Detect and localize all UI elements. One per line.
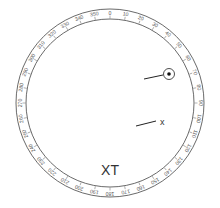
degree-label: 220 bbox=[46, 165, 59, 178]
degree-label: 240 bbox=[27, 141, 39, 153]
degree-label: 0 bbox=[109, 10, 112, 19]
degree-label: 230 bbox=[36, 154, 49, 167]
degree-label: 280 bbox=[17, 82, 27, 92]
svg-text:180: 180 bbox=[106, 191, 115, 197]
degree-label: 300 bbox=[27, 52, 39, 64]
svg-text:350: 350 bbox=[90, 10, 100, 17]
svg-text:100: 100 bbox=[195, 114, 202, 124]
degree-label: 330 bbox=[60, 20, 72, 32]
svg-text:240: 240 bbox=[27, 143, 37, 154]
svg-text:310: 310 bbox=[36, 39, 46, 50]
degree-label: 270 bbox=[17, 99, 26, 108]
svg-text:90: 90 bbox=[198, 100, 204, 106]
svg-text:80: 80 bbox=[196, 84, 203, 91]
svg-text:320: 320 bbox=[47, 29, 58, 39]
svg-text:130: 130 bbox=[174, 156, 184, 167]
compass-dial: 0102030405060708090100110120130140150160… bbox=[0, 0, 220, 208]
degree-label: 320 bbox=[47, 29, 60, 42]
degree-label: 350 bbox=[90, 10, 100, 20]
x-label: x bbox=[160, 117, 165, 127]
svg-text:280: 280 bbox=[17, 82, 24, 92]
degree-label: 260 bbox=[17, 113, 27, 123]
degree-label: 130 bbox=[172, 154, 185, 167]
svg-text:250: 250 bbox=[21, 129, 30, 139]
degree-label: 150 bbox=[148, 174, 160, 186]
degree-label: 10 bbox=[122, 10, 129, 20]
svg-text:150: 150 bbox=[150, 177, 161, 187]
svg-text:120: 120 bbox=[184, 143, 194, 154]
svg-text:230: 230 bbox=[36, 156, 46, 167]
degree-label: 100 bbox=[192, 113, 202, 123]
degree-label: 20 bbox=[136, 14, 145, 24]
target-marker-dot bbox=[167, 72, 171, 76]
degree-label: 80 bbox=[193, 84, 203, 91]
svg-text:170: 170 bbox=[121, 188, 131, 195]
svg-text:110: 110 bbox=[191, 129, 200, 139]
degree-label: 180 bbox=[106, 188, 115, 197]
degree-label: 170 bbox=[120, 185, 130, 195]
svg-text:190: 190 bbox=[89, 188, 99, 195]
svg-text:0: 0 bbox=[109, 10, 112, 16]
svg-text:260: 260 bbox=[17, 114, 24, 124]
svg-text:270: 270 bbox=[17, 99, 23, 108]
x-pointer-line bbox=[136, 121, 156, 126]
svg-text:290: 290 bbox=[21, 67, 30, 77]
degree-label: 90 bbox=[195, 100, 204, 106]
degree-label: 310 bbox=[36, 39, 49, 52]
svg-text:330: 330 bbox=[60, 20, 71, 30]
degree-label: 190 bbox=[89, 185, 99, 195]
svg-text:10: 10 bbox=[122, 10, 129, 17]
svg-text:220: 220 bbox=[46, 167, 57, 177]
degree-label: 70 bbox=[188, 68, 198, 77]
svg-text:40: 40 bbox=[164, 30, 172, 38]
svg-text:50: 50 bbox=[175, 41, 183, 49]
degree-label: 120 bbox=[181, 142, 193, 154]
svg-text:300: 300 bbox=[27, 52, 37, 63]
svg-text:20: 20 bbox=[137, 14, 145, 22]
svg-text:30: 30 bbox=[151, 21, 159, 29]
svg-text:140: 140 bbox=[163, 167, 174, 177]
degree-label: 140 bbox=[161, 165, 174, 178]
svg-text:200: 200 bbox=[74, 184, 84, 193]
degree-label: 210 bbox=[59, 174, 71, 186]
dial-title: XT bbox=[101, 162, 119, 178]
svg-text:60: 60 bbox=[184, 54, 192, 62]
svg-text:340: 340 bbox=[74, 14, 84, 23]
svg-text:70: 70 bbox=[191, 68, 199, 76]
svg-text:210: 210 bbox=[59, 177, 70, 187]
svg-text:160: 160 bbox=[136, 184, 146, 193]
marker-pointer-line bbox=[144, 75, 163, 79]
